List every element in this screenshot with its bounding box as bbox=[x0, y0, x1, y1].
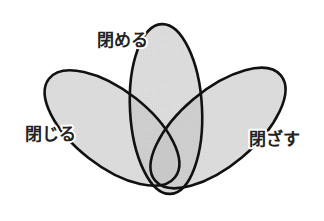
label-center: 閉める bbox=[97, 30, 148, 50]
label-left: 閉じる bbox=[25, 124, 76, 144]
venn-diagram: 閉める 閉じる 閉ざす bbox=[0, 0, 324, 221]
label-right: 閉ざす bbox=[249, 129, 300, 149]
